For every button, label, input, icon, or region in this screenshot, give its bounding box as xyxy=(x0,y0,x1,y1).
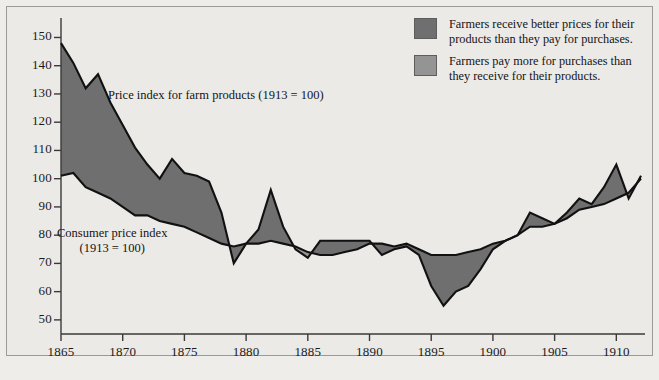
legend-swatch-light xyxy=(414,55,437,76)
y-tick-label: 90 xyxy=(12,198,52,214)
y-tick-label: 80 xyxy=(12,226,52,242)
x-tick-label: 1890 xyxy=(345,344,395,360)
cpi-series-label-line2: (1913 = 100) xyxy=(57,241,167,256)
y-tick-label: 140 xyxy=(12,57,52,73)
legend-label-line1: Farmers receive better prices for their xyxy=(449,17,634,31)
legend-item-farm-unfavorable: Farmers pay more for purchases than they… xyxy=(414,54,646,84)
farm-series-label: Price index for farm products (1913 = 10… xyxy=(108,88,324,103)
y-tick-label: 50 xyxy=(12,311,52,327)
legend-label-line2: they receive for their products. xyxy=(449,69,600,83)
x-tick-label: 1905 xyxy=(530,344,580,360)
x-tick-label: 1910 xyxy=(591,344,641,360)
cpi-series-label: Consumer price index (1913 = 100) xyxy=(57,226,167,256)
legend-label-farm-unfavorable: Farmers pay more for purchases than they… xyxy=(449,54,632,84)
legend-swatch-dark xyxy=(414,18,437,39)
y-tick-label: 100 xyxy=(12,170,52,186)
y-tick-label: 60 xyxy=(12,283,52,299)
x-tick-label: 1870 xyxy=(98,344,148,360)
cpi-series-label-line1: Consumer price index xyxy=(57,226,167,241)
legend-label-line2: products than they pay for purchases. xyxy=(449,32,633,46)
x-tick-label: 1895 xyxy=(406,344,456,360)
y-tick-label: 150 xyxy=(12,28,52,44)
x-tick-label: 1880 xyxy=(221,344,271,360)
chart-legend: Farmers receive better prices for their … xyxy=(414,17,646,91)
x-tick-label: 1865 xyxy=(36,344,86,360)
legend-item-farm-favorable: Farmers receive better prices for their … xyxy=(414,17,646,47)
legend-label-line1: Farmers pay more for purchases than xyxy=(449,54,632,68)
x-tick-label: 1885 xyxy=(283,344,333,360)
y-tick-label: 130 xyxy=(12,85,52,101)
y-tick-label: 120 xyxy=(12,113,52,129)
x-tick-label: 1900 xyxy=(468,344,518,360)
legend-label-farm-favorable: Farmers receive better prices for their … xyxy=(449,17,634,47)
y-tick-label: 70 xyxy=(12,254,52,270)
y-tick-label: 110 xyxy=(12,141,52,157)
x-tick-label: 1875 xyxy=(159,344,209,360)
chart-figure: 5060708090100110120130140150 18651870187… xyxy=(0,0,659,380)
